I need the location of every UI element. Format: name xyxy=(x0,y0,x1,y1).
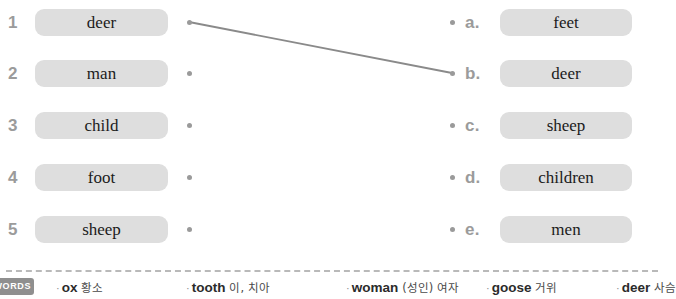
right-option-marker: e. xyxy=(465,216,499,243)
left-option-marker: 1 xyxy=(8,9,28,36)
left-connector-dot[interactable] xyxy=(187,71,192,76)
glossary-translation: 사슴 xyxy=(654,281,676,295)
left-option-marker: 5 xyxy=(8,216,28,243)
glossary-translation: 황소 xyxy=(81,281,103,295)
glossary-item: ·goose거위 xyxy=(486,276,557,299)
glossary-term: ox xyxy=(62,280,78,295)
right-option-row[interactable]: c.sheep xyxy=(440,112,664,139)
left-option-marker: 3 xyxy=(8,112,28,139)
left-option-row[interactable]: 3child xyxy=(0,112,200,139)
glossary-bullet-icon: · xyxy=(186,282,190,294)
glossary-translation: (성인) 여자 xyxy=(402,281,459,295)
right-option-row[interactable]: b.deer xyxy=(440,60,664,87)
right-option-row[interactable]: e.men xyxy=(440,216,664,243)
right-option-row[interactable]: d.children xyxy=(440,164,664,191)
right-option-marker: d. xyxy=(465,164,499,191)
right-connector-dot[interactable] xyxy=(450,175,455,180)
left-connector-dot[interactable] xyxy=(187,20,192,25)
left-option-word[interactable]: man xyxy=(35,60,168,87)
glossary-item: ·deer사슴 xyxy=(616,276,676,299)
glossary-term: woman xyxy=(352,280,399,295)
glossary-item: ·woman(성인) 여자 xyxy=(346,276,459,299)
glossary-bullet-icon: · xyxy=(56,282,60,294)
connection-line xyxy=(189,22,452,73)
right-connector-dot[interactable] xyxy=(450,227,455,232)
right-connector-dot[interactable] xyxy=(450,71,455,76)
left-option-row[interactable]: 1deer xyxy=(0,9,200,36)
footer-divider xyxy=(6,270,658,272)
left-connector-dot[interactable] xyxy=(187,227,192,232)
left-option-row[interactable]: 2man xyxy=(0,60,200,87)
right-option-word[interactable]: children xyxy=(500,164,632,191)
vocabulary-footer: WORDS ·ox황소·tooth이, 치아·woman(성인) 여자·goos… xyxy=(0,262,664,299)
left-option-row[interactable]: 4foot xyxy=(0,164,200,191)
left-option-word[interactable]: foot xyxy=(35,164,168,191)
glossary-list: ·ox황소·tooth이, 치아·woman(성인) 여자·goose거위·de… xyxy=(56,276,656,297)
right-connector-dot[interactable] xyxy=(450,123,455,128)
right-option-word[interactable]: sheep xyxy=(500,112,632,139)
glossary-term: deer xyxy=(622,280,651,295)
glossary-bullet-icon: · xyxy=(346,282,350,294)
glossary-translation: 거위 xyxy=(535,281,557,295)
left-option-word[interactable]: child xyxy=(35,112,168,139)
glossary-translation: 이, 치아 xyxy=(229,281,269,295)
left-option-word[interactable]: deer xyxy=(35,9,168,36)
right-option-word[interactable]: deer xyxy=(500,60,632,87)
left-option-row[interactable]: 5sheep xyxy=(0,216,200,243)
right-option-marker: a. xyxy=(465,9,499,36)
right-option-word[interactable]: feet xyxy=(500,9,632,36)
left-option-marker: 4 xyxy=(8,164,28,191)
right-connector-dot[interactable] xyxy=(450,20,455,25)
glossary-bullet-icon: · xyxy=(486,282,490,294)
glossary-term: goose xyxy=(492,280,532,295)
left-connector-dot[interactable] xyxy=(187,175,192,180)
glossary-item: ·tooth이, 치아 xyxy=(186,276,270,299)
right-option-marker: b. xyxy=(465,60,499,87)
left-connector-dot[interactable] xyxy=(187,123,192,128)
right-option-word[interactable]: men xyxy=(500,216,632,243)
glossary-bullet-icon: · xyxy=(616,282,620,294)
glossary-term: tooth xyxy=(192,280,226,295)
right-option-row[interactable]: a.feet xyxy=(440,9,664,36)
right-option-marker: c. xyxy=(465,112,499,139)
left-option-word[interactable]: sheep xyxy=(35,216,168,243)
words-badge: WORDS xyxy=(0,278,34,295)
glossary-item: ·ox황소 xyxy=(56,276,103,299)
left-option-marker: 2 xyxy=(8,60,28,87)
